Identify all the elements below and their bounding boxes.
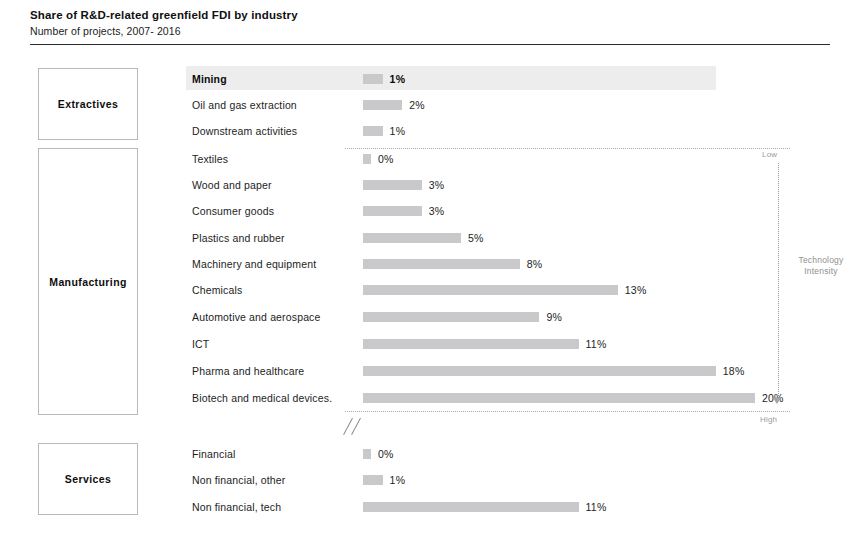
- bar-value-label: 5%: [468, 225, 484, 251]
- bar: [363, 233, 461, 243]
- bar-row[interactable]: Chemicals13%: [186, 277, 786, 303]
- bar: [363, 206, 422, 216]
- bar-value-label: 3%: [429, 198, 445, 224]
- bar: [363, 154, 371, 164]
- bar-row-label: Financial: [192, 441, 235, 467]
- bar-row-label: Pharma and healthcare: [192, 358, 304, 384]
- bar-row-label: Mining: [192, 66, 227, 92]
- bar-row-label: Consumer goods: [192, 198, 274, 224]
- bar-row-label: Plastics and rubber: [192, 225, 285, 251]
- bar-row-label: Machinery and equipment: [192, 251, 316, 277]
- axis-break-icon: [350, 418, 376, 436]
- bar: [363, 74, 383, 84]
- bar-row[interactable]: Oil and gas extraction2%: [186, 92, 786, 118]
- bar-row[interactable]: Machinery and equipment8%: [186, 251, 786, 277]
- bar-row-label: ICT: [192, 331, 209, 357]
- bar: [363, 475, 383, 485]
- bar-row[interactable]: Non financial, tech11%: [186, 494, 786, 520]
- bar-row[interactable]: Mining1%: [186, 66, 786, 92]
- bar-row-label: Oil and gas extraction: [192, 92, 297, 118]
- bar: [363, 502, 579, 512]
- bar-row[interactable]: Automotive and aerospace9%: [186, 304, 786, 330]
- bar-value-label: 9%: [546, 304, 562, 330]
- axis-arrow-icon: [773, 398, 781, 404]
- bar-value-label: 11%: [586, 494, 607, 520]
- bar: [363, 126, 383, 136]
- bar-row-label: Chemicals: [192, 277, 242, 303]
- bar: [363, 366, 716, 376]
- bar-value-label: 3%: [429, 172, 445, 198]
- bar: [363, 449, 371, 459]
- bar-value-label: 1%: [390, 118, 406, 144]
- bar-row-label: Automotive and aerospace: [192, 304, 321, 330]
- bar-value-label: 13%: [625, 277, 647, 303]
- axis-title: Technology Intensity: [786, 255, 856, 277]
- axis-title-line2: Intensity: [804, 266, 837, 276]
- bar-value-label: 11%: [586, 331, 607, 357]
- bar-row-label: Downstream activities: [192, 118, 297, 144]
- bar-value-label: 18%: [723, 358, 745, 384]
- bar-row[interactable]: Textiles0%: [186, 146, 786, 172]
- axis-title-line1: Technology: [798, 255, 843, 265]
- bar-row-group: Mining1%Oil and gas extraction2%Downstre…: [0, 0, 858, 533]
- bar-value-label: 0%: [378, 441, 394, 467]
- axis-high-label: High: [760, 415, 777, 424]
- bar-row-label: Wood and paper: [192, 172, 272, 198]
- axis-line: [778, 163, 779, 398]
- bar-row-label: Non financial, tech: [192, 494, 281, 520]
- bar-row[interactable]: Pharma and healthcare18%: [186, 358, 786, 384]
- bar-row[interactable]: Plastics and rubber5%: [186, 225, 786, 251]
- bar: [363, 285, 618, 295]
- bar-row[interactable]: Non financial, other1%: [186, 467, 786, 493]
- bar-value-label: 8%: [527, 251, 543, 277]
- bar-value-label: 0%: [378, 146, 394, 172]
- bar-row[interactable]: ICT11%: [186, 331, 786, 357]
- bar-value-label: 1%: [390, 467, 406, 493]
- bar: [363, 339, 579, 349]
- chart-canvas: Share of R&D-related greenfield FDI by i…: [0, 0, 858, 533]
- bar-row-label: Textiles: [192, 146, 228, 172]
- bar-row-label: Non financial, other: [192, 467, 285, 493]
- bar: [363, 100, 402, 110]
- bar-row[interactable]: Biotech and medical devices.20%: [186, 385, 786, 411]
- bar: [363, 312, 539, 322]
- bar-row[interactable]: Downstream activities1%: [186, 118, 786, 144]
- bar-value-label: 1%: [390, 66, 406, 92]
- axis-low-label: Low: [762, 150, 777, 159]
- bar: [363, 180, 422, 190]
- bar-row[interactable]: Wood and paper3%: [186, 172, 786, 198]
- bar-row[interactable]: Consumer goods3%: [186, 198, 786, 224]
- bar-row[interactable]: Financial0%: [186, 441, 786, 467]
- bar: [363, 259, 520, 269]
- bar-row-label: Biotech and medical devices.: [192, 385, 332, 411]
- bar: [363, 393, 755, 403]
- bar-value-label: 2%: [409, 92, 425, 118]
